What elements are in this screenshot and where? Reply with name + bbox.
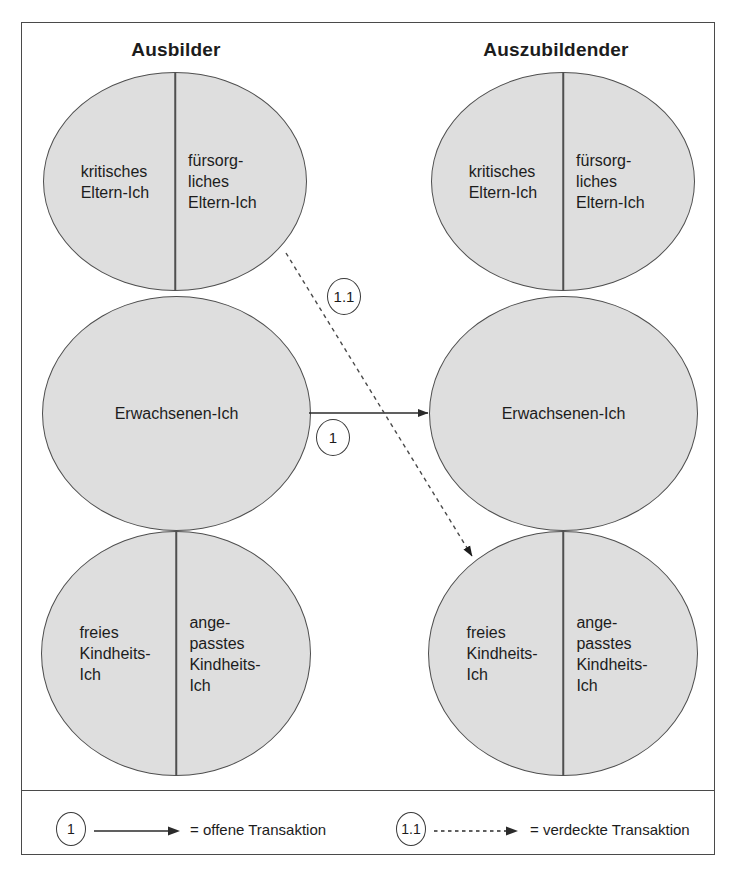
ausbilder-adult-ego[interactable]: Erwachsenen-Ich [42,296,311,531]
auszubildender-free-child-label: freies Kindheits- Ich [467,622,538,685]
auszubildender-parent-ego[interactable]: kritisches Eltern-Ich fürsorg- liches El… [431,72,695,291]
transaction-badge-1-1[interactable]: 1.1 [327,278,361,315]
ausbilder-parent-ego[interactable]: kritisches Eltern-Ich fürsorg- liches El… [43,72,307,291]
legend-item-covert-transaction: 1.1 = verdeckte Transaktion [396,809,690,849]
transaction-badge-1[interactable]: 1 [316,419,350,456]
ausbilder-adapted-child-label: ange- passtes Kindheits- Ich [189,611,260,695]
ausbilder-child-ego[interactable]: freies Kindheits- Ich ange- passtes Kind… [41,531,311,776]
legend-dotted-arrow-icon [434,823,522,835]
auszubildender-adult-label: Erwachsenen-Ich [430,403,697,424]
ausbilder-adult-label: Erwachsenen-Ich [43,403,310,424]
legend-label-open-transaction: = offene Transaktion [190,821,326,838]
parent-ego-divider [174,73,176,290]
ausbilder-free-child-label: freies Kindheits- Ich [80,622,151,685]
diagram-frame: Ausbilder Auszubildender kritisches Elte… [21,22,715,855]
child-ego-divider [175,532,177,775]
parent-ego-divider [562,73,564,290]
legend-divider [21,790,715,791]
column-title-auszubildender: Auszubildender [483,39,628,61]
auszubildender-critical-parent-label: kritisches Eltern-Ich [469,160,537,202]
ausbilder-critical-parent-label: kritisches Eltern-Ich [81,160,149,202]
child-ego-divider [562,532,564,775]
auszubildender-child-ego[interactable]: freies Kindheits- Ich ange- passtes Kind… [428,531,698,776]
legend-solid-arrow-icon [94,823,182,835]
ausbilder-nurturing-parent-label: fürsorg- liches Eltern-Ich [188,150,256,213]
legend-badge-1-1: 1.1 [396,812,426,846]
diagram-page: Ausbilder Auszubildender kritisches Elte… [0,0,736,874]
auszubildender-adapted-child-label: ange- passtes Kindheits- Ich [576,611,647,695]
legend-label-covert-transaction: = verdeckte Transaktion [530,821,690,838]
auszubildender-nurturing-parent-label: fürsorg- liches Eltern-Ich [576,150,644,213]
legend-badge-1: 1 [56,812,86,846]
legend-item-open-transaction: 1 = offene Transaktion [56,809,326,849]
auszubildender-adult-ego[interactable]: Erwachsenen-Ich [429,296,698,531]
column-title-ausbilder: Ausbilder [131,39,220,61]
